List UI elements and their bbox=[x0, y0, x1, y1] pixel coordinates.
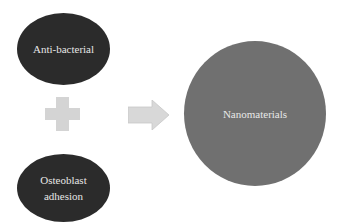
nanomaterials-label: Nanomaterials bbox=[223, 108, 287, 120]
anti-bacterial-node: Anti-bacterial bbox=[17, 13, 110, 85]
anti-bacterial-label: Anti-bacterial bbox=[33, 43, 94, 55]
plus-icon bbox=[45, 97, 80, 131]
osteoblast-adhesion-label: Osteoblast adhesion bbox=[40, 172, 86, 204]
nanomaterials-node: Nanomaterials bbox=[184, 41, 326, 186]
arrow-right-icon bbox=[128, 100, 170, 130]
osteoblast-adhesion-node: Osteoblast adhesion bbox=[17, 154, 110, 222]
